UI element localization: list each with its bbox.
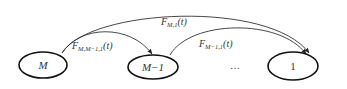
node-m: M xyxy=(19,52,67,78)
edge-label-m-1: FM,1(t) xyxy=(160,16,188,28)
edge-label-m-minus-1-1: FM−1,1(t) xyxy=(198,38,233,50)
edge-m-minus-1-to-1 xyxy=(170,28,306,55)
node-m-minus-1-label: M−1 xyxy=(141,61,164,73)
edge-label-m-m-minus-1: FM,M−1,1(t) xyxy=(71,40,113,52)
ellipsis: … xyxy=(230,60,240,71)
node-1-label: 1 xyxy=(290,60,296,72)
state-transition-diagram: FM,1(t) FM,M−1,1(t) FM−1,1(t) M M−1 … 1 xyxy=(0,0,347,89)
node-1: 1 xyxy=(268,52,318,80)
node-m-label: M xyxy=(37,59,48,71)
node-m-minus-1: M−1 xyxy=(128,55,178,79)
